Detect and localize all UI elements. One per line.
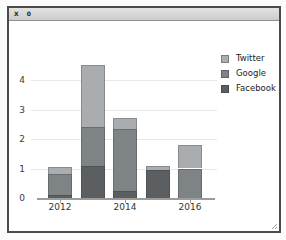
bar-segment-google-2014 xyxy=(113,129,137,191)
legend-swatch-google xyxy=(221,70,229,78)
window-titlebar[interactable]: X 0 xyxy=(9,8,279,21)
x-axis-tick-label: 2016 xyxy=(175,202,205,213)
bar-segment-twitter-2014 xyxy=(113,118,137,128)
y-axis-tick-label: 1 xyxy=(11,164,25,175)
chart-legend: TwitterGoogleFacebook xyxy=(221,51,276,96)
bar-segment-facebook-2014 xyxy=(113,191,137,198)
bar-segment-facebook-2013 xyxy=(81,166,105,198)
legend-item-google: Google xyxy=(221,66,276,81)
y-axis-tick-label: 0 xyxy=(11,193,25,204)
window-title: X 0 xyxy=(14,11,34,17)
bar-segment-twitter-2013 xyxy=(81,65,105,127)
legend-item-facebook: Facebook xyxy=(221,81,276,96)
legend-item-twitter: Twitter xyxy=(221,51,276,66)
y-axis-tick-label: 3 xyxy=(11,105,25,116)
legend-label: Facebook xyxy=(236,84,276,93)
y-axis-tick-label: 2 xyxy=(11,134,25,145)
x-axis-tick-label: 2014 xyxy=(110,202,140,213)
y-axis-tick-label: 4 xyxy=(11,75,25,86)
bar-segment-google-2012 xyxy=(48,174,72,195)
bar-segment-twitter-2015 xyxy=(146,166,170,170)
gridline-y3 xyxy=(31,110,217,111)
gridline-y4 xyxy=(31,80,217,81)
chart-window: X 0 TwitterGoogleFacebook 01234201220142… xyxy=(7,6,281,233)
x-axis-tick-label: 2012 xyxy=(45,202,75,213)
legend-swatch-facebook xyxy=(221,85,229,93)
bar-segment-facebook-2012 xyxy=(48,195,72,198)
bar-segment-google-2016 xyxy=(178,169,202,199)
legend-swatch-twitter xyxy=(221,55,229,63)
legend-label: Twitter xyxy=(236,54,265,63)
legend-label: Google xyxy=(236,69,266,78)
x-axis-line xyxy=(37,198,215,200)
bar-segment-twitter-2016 xyxy=(178,145,202,169)
bar-segment-google-2013 xyxy=(81,127,105,165)
chart-area: TwitterGoogleFacebook 01234201220142016 xyxy=(9,21,279,231)
bar-segment-twitter-2012 xyxy=(48,167,72,174)
bar-segment-facebook-2015 xyxy=(146,170,170,198)
resize-grip-icon[interactable] xyxy=(270,222,278,230)
